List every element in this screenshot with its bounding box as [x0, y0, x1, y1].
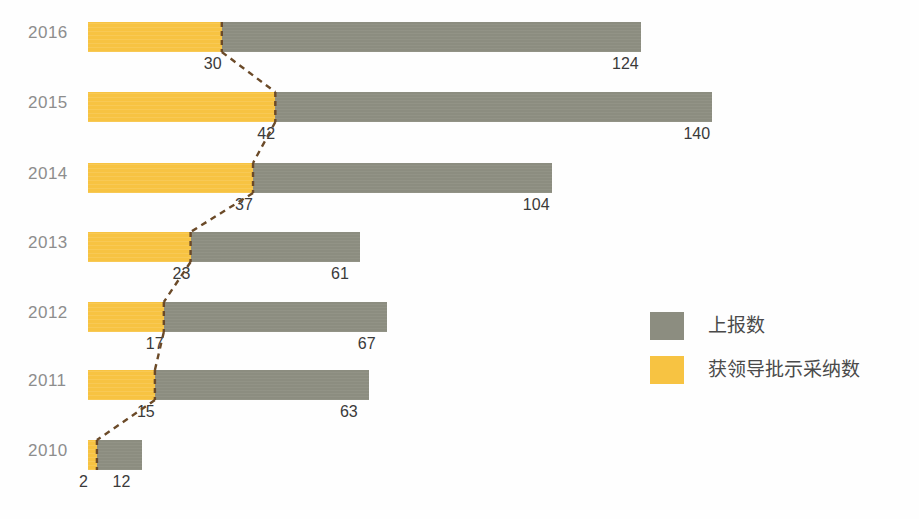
- year-axis-label: 2014: [28, 164, 80, 184]
- bar-stack[interactable]: [88, 22, 641, 52]
- chart-row: 201437104: [0, 155, 919, 201]
- bar-segment-reported[interactable]: [164, 302, 387, 332]
- value-label-accepted: 37: [235, 196, 253, 214]
- bar-stack[interactable]: [88, 163, 552, 193]
- bar-stack[interactable]: [88, 302, 387, 332]
- bar-segment-reported[interactable]: [155, 370, 369, 400]
- bar-stack[interactable]: [88, 232, 360, 262]
- bar-segment-accepted[interactable]: [88, 163, 253, 193]
- year-axis-label: 2012: [28, 303, 80, 323]
- value-label-reported: 104: [523, 196, 550, 214]
- bar-stack[interactable]: [88, 92, 712, 122]
- value-label-reported: 63: [340, 403, 358, 421]
- chart-row: 201542140: [0, 84, 919, 130]
- legend-item-accepted: 获领导批示采纳数: [650, 352, 900, 396]
- chart-legend: 上报数 获领导批示采纳数: [650, 308, 900, 396]
- bar-segment-accepted[interactable]: [88, 232, 191, 262]
- bar-segment-accepted[interactable]: [88, 302, 164, 332]
- value-label-reported: 124: [612, 55, 639, 73]
- value-label-accepted: 42: [257, 125, 275, 143]
- legend-swatch-gray-icon: [650, 312, 684, 340]
- year-axis-label: 2015: [28, 93, 80, 113]
- bar-segment-reported[interactable]: [253, 163, 552, 193]
- value-label-accepted: 2: [79, 473, 88, 491]
- year-axis-label: 2010: [28, 441, 80, 461]
- bar-stack[interactable]: [88, 370, 369, 400]
- chart-row: 2010212: [0, 432, 919, 478]
- bar-segment-accepted[interactable]: [88, 22, 222, 52]
- legend-item-reported: 上报数: [650, 308, 900, 352]
- value-label-accepted: 23: [173, 265, 191, 283]
- plot-area: 2016301242015421402014371042013236120121…: [0, 0, 919, 519]
- bar-segment-accepted[interactable]: [88, 370, 155, 400]
- bar-segment-reported[interactable]: [222, 22, 641, 52]
- bar-segment-reported[interactable]: [275, 92, 712, 122]
- value-label-reported: 12: [113, 473, 131, 491]
- chart-row: 20132361: [0, 224, 919, 270]
- stacked-bar-chart: 2016301242015421402014371042013236120121…: [0, 0, 919, 519]
- chart-row: 201630124: [0, 14, 919, 60]
- bar-segment-reported[interactable]: [97, 440, 142, 470]
- legend-swatch-orange-icon: [650, 356, 684, 384]
- bar-segment-reported[interactable]: [191, 232, 360, 262]
- legend-label-accepted: 获领导批示采纳数: [708, 354, 860, 381]
- bar-stack[interactable]: [88, 440, 142, 470]
- year-axis-label: 2016: [28, 23, 80, 43]
- legend-label-reported: 上报数: [708, 310, 765, 337]
- bar-segment-accepted[interactable]: [88, 440, 97, 470]
- value-label-accepted: 17: [146, 335, 164, 353]
- year-axis-label: 2011: [28, 371, 80, 391]
- year-axis-label: 2013: [28, 233, 80, 253]
- value-label-reported: 140: [683, 125, 710, 143]
- value-label-accepted: 30: [204, 55, 222, 73]
- value-label-reported: 67: [358, 335, 376, 353]
- bar-segment-accepted[interactable]: [88, 92, 275, 122]
- value-label-accepted: 15: [137, 403, 155, 421]
- value-label-reported: 61: [331, 265, 349, 283]
